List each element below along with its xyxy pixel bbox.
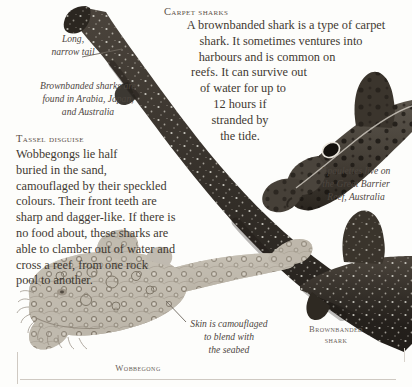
page-rule-bottom <box>20 379 396 380</box>
skin-line-1: Skin is camouflaged <box>180 318 278 331</box>
epaulette-line-3: Reef, Australia <box>312 191 400 204</box>
wobbegong-label: Wobbegong <box>88 363 188 374</box>
carpet-sharks-heading: Carpet sharks <box>164 6 406 17</box>
tassel-line-1: Wobbegongs lie half <box>16 147 186 163</box>
tassel-line-7: able to clamber out of water and <box>16 242 186 258</box>
epaulette-line-1: Epaulettes live on <box>312 165 400 178</box>
carpet-line-2: shark. It sometimes ventures into <box>156 34 406 50</box>
epaulette-annotation: Epaulettes live on the Great Barrier Ree… <box>312 165 400 204</box>
tassel-disguise-text-block: Tassel disguise Wobbegongs lie half buri… <box>16 128 186 289</box>
carpet-sharks-paragraph: A brownbanded shark is a type of carpet … <box>152 18 406 144</box>
skin-line-3: the seabed <box>180 344 278 357</box>
brownbanded-label-line-1: Brownbanded <box>288 324 384 335</box>
illustrated-page: Carpet sharks A brownbanded shark is a t… <box>0 0 412 387</box>
distribution-line-2: found in Arabia, Japan, <box>30 93 146 106</box>
tail-annotation-line-1: Long, <box>34 33 112 46</box>
carpet-line-4: reefs. It can survive out <box>92 65 406 81</box>
tassel-line-4: colours. Their front teeth are <box>16 194 186 210</box>
carpet-line-3: harbours and is common on <box>128 50 406 66</box>
tail-annotation-line-2: narrow tail <box>34 46 112 59</box>
skin-line-2: to blend with <box>180 331 278 344</box>
brownbanded-shark-label: Brownbanded shark <box>288 324 384 346</box>
tassel-line-9: pool to another. <box>16 273 186 289</box>
page-rule-left <box>17 352 18 384</box>
page-rule-right <box>404 348 405 362</box>
tassel-disguise-paragraph: Wobbegongs lie half buried in the sand, … <box>16 147 186 289</box>
distribution-annotation: Brownbanded sharks are found in Arabia, … <box>30 80 146 119</box>
skin-camouflage-annotation: Skin is camouflaged to blend with the se… <box>180 318 278 357</box>
tassel-line-2: buried in the sand, <box>16 163 186 179</box>
carpet-sharks-text-block: Carpet sharks A brownbanded shark is a t… <box>152 6 406 144</box>
carpet-line-1: A brownbanded shark is a type of carpet <box>166 18 406 34</box>
distribution-line-1: Brownbanded sharks are <box>30 80 146 93</box>
epaulette-line-2: the Great Barrier <box>312 178 400 191</box>
tail-annotation: Long, narrow tail <box>34 33 112 59</box>
tassel-line-6: no food about, these sharks are <box>16 226 186 242</box>
tassel-line-5: sharp and dagger-like. If there is <box>16 210 186 226</box>
brownbanded-label-line-2: shark <box>288 335 384 346</box>
tassel-disguise-heading: Tassel disguise <box>16 133 84 144</box>
tassel-line-8: cross a reef, from one rock <box>16 258 186 274</box>
distribution-line-3: and Australia <box>30 106 146 119</box>
tassel-line-3: camouflaged by their speckled <box>16 179 186 195</box>
